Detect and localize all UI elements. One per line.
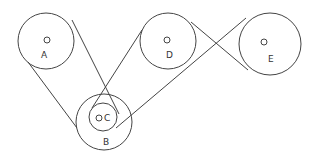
- hub-e-icon: [261, 39, 267, 45]
- belt-e-c-long: [116, 18, 246, 128]
- belt-a-c-cross: [72, 20, 119, 114]
- pulley-c: [89, 103, 117, 131]
- pulley-e: [239, 13, 301, 75]
- label-b: B: [103, 137, 109, 147]
- diagram-svg: ADEBC: [0, 0, 314, 163]
- hub-d-icon: [164, 37, 170, 43]
- pulley-diagram: ADEBC: [0, 0, 314, 163]
- pulley-d: [140, 13, 196, 69]
- label-e: E: [268, 54, 274, 64]
- label-d: D: [166, 50, 173, 60]
- pulley-a: [18, 13, 74, 69]
- hub-a-icon: [44, 37, 50, 43]
- belt-a-b-left: [28, 62, 77, 128]
- belt-d-c-cross: [92, 30, 142, 108]
- hub-c-icon: [96, 115, 102, 121]
- label-c: C: [104, 113, 110, 123]
- label-a: A: [41, 50, 48, 60]
